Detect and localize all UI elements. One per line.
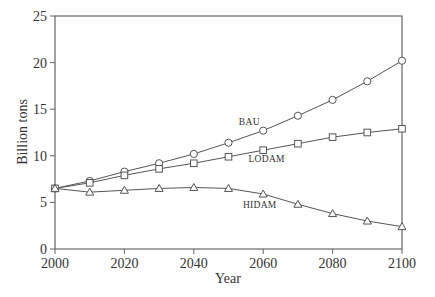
- circle-marker: [190, 150, 197, 157]
- series-bau: BAU: [51, 57, 405, 192]
- plot-frame: [55, 16, 402, 249]
- series-layer: BAULODAMHIDAM: [51, 57, 406, 229]
- plot-border: [55, 16, 402, 249]
- square-marker: [364, 129, 371, 136]
- square-marker: [86, 180, 93, 187]
- circle-marker: [329, 96, 336, 103]
- x-axis: 200020202040206020802100: [41, 249, 416, 271]
- y-tick-label: 20: [33, 56, 47, 71]
- series-label: LODAM: [248, 154, 285, 164]
- x-axis-title: Year: [215, 271, 241, 286]
- y-axis: 0510152025: [33, 9, 55, 257]
- square-marker: [399, 125, 406, 132]
- y-tick-label: 0: [40, 242, 47, 257]
- square-marker: [329, 134, 336, 141]
- x-tick-label: 2060: [249, 256, 277, 271]
- y-tick-label: 15: [33, 102, 47, 117]
- square-marker: [191, 160, 198, 167]
- series-label: HIDAM: [243, 200, 277, 210]
- y-tick-label: 5: [40, 195, 47, 210]
- series-lodam: LODAM: [52, 125, 406, 191]
- square-marker: [121, 172, 128, 179]
- circle-marker: [260, 127, 267, 134]
- series-label: BAU: [239, 117, 260, 127]
- square-marker: [225, 153, 232, 160]
- series-line: [55, 61, 402, 189]
- circle-marker: [294, 112, 301, 119]
- circle-marker: [364, 78, 371, 85]
- square-marker: [156, 166, 163, 173]
- x-tick-label: 2100: [388, 256, 416, 271]
- x-tick-label: 2040: [180, 256, 208, 271]
- triangle-marker: [190, 183, 198, 190]
- x-tick-label: 2000: [41, 256, 69, 271]
- series-line: [55, 187, 402, 226]
- y-axis-title: Billion tons: [15, 99, 30, 165]
- line-chart: 0510152025 200020202040206020802100 BAUL…: [0, 0, 435, 297]
- y-tick-label: 25: [33, 9, 47, 24]
- circle-marker: [225, 139, 232, 146]
- x-tick-label: 2080: [319, 256, 347, 271]
- square-marker: [295, 140, 302, 147]
- circle-marker: [398, 57, 405, 64]
- series-hidam: HIDAM: [51, 183, 406, 229]
- y-tick-label: 10: [33, 149, 47, 164]
- square-marker: [260, 147, 267, 154]
- x-tick-label: 2020: [110, 256, 138, 271]
